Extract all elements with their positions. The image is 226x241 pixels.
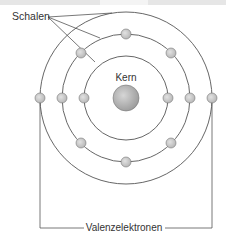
- atom-diagram: Schalen Kern Valenzelektronen: [0, 0, 226, 241]
- electron-inner-right: [163, 93, 173, 103]
- electron-middle-bottom: [121, 157, 131, 167]
- valence-label: Valenzelektronen: [86, 222, 163, 233]
- valence-electron-right: [207, 93, 217, 103]
- electron-middle-left: [57, 93, 67, 103]
- electron-middle-bottomright: [166, 138, 176, 148]
- electron-middle-right: [185, 93, 195, 103]
- valence-electron-left: [35, 93, 45, 103]
- nucleus: [113, 85, 139, 111]
- electron-middle-topleft: [76, 48, 86, 58]
- electron-middle-top: [121, 29, 131, 39]
- electron-middle-bottomleft: [76, 138, 86, 148]
- shells-label: Schalen: [12, 10, 50, 22]
- electron-inner-left: [79, 93, 89, 103]
- electron-middle-topright: [166, 48, 176, 58]
- nucleus-label: Kern: [115, 72, 136, 83]
